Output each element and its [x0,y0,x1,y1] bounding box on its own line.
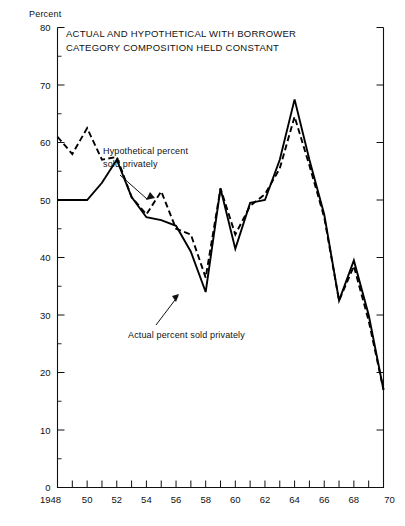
chart-tick-marks [58,28,384,488]
y-tick-label: 40 [40,252,51,263]
chart-axes [58,28,384,488]
x-tick-label: 1948 [40,494,61,505]
y-axis-tick-labels: 01020304050607080 [40,22,51,493]
x-tick-label: 64 [289,494,300,505]
y-tick-label: 0 [45,482,50,493]
x-tick-label: 60 [230,494,241,505]
annotation-hypothetical-series: Hypothetical percent sold privately [103,145,188,170]
leader-line-hypothetical [120,175,147,199]
chart-series-layer [58,99,384,389]
y-tick-label: 20 [40,367,51,378]
y-axis-unit-label: Percent [29,9,61,19]
series-line-actual [58,99,384,389]
x-tick-label: 52 [111,494,122,505]
chart-title: ACTUAL AND HYPOTHETICAL WITH BORROWER CA… [66,27,296,55]
y-tick-label: 60 [40,137,51,148]
x-tick-label: 50 [82,494,93,505]
leader-line-actual [156,296,178,325]
y-tick-label: 10 [40,425,51,436]
x-axis-tick-labels: 19485052545658606264666870 [40,494,395,505]
y-tick-label: 80 [40,22,51,33]
leader-arrowhead-hypothetical [146,192,155,200]
x-tick-label: 54 [141,494,152,505]
annotation-leader-lines [120,175,179,325]
annotation-actual-series: Actual percent sold privately [128,329,245,342]
leader-arrowhead-actual [172,294,179,302]
x-tick-label: 68 [349,494,360,505]
x-tick-label: 62 [260,494,271,505]
axis-frame [58,28,384,488]
y-tick-label: 30 [40,310,51,321]
x-tick-label: 58 [200,494,211,505]
x-tick-label: 56 [171,494,182,505]
y-tick-label: 50 [40,195,51,206]
chart-figure: Percent ACTUAL AND HYPOTHETICAL WITH BOR… [0,0,405,526]
chart-plot-area: 01020304050607080 1948505254565860626466… [0,0,405,526]
y-tick-label: 70 [40,80,51,91]
x-tick-label: 66 [319,494,330,505]
x-tick-label: 70 [384,494,395,505]
